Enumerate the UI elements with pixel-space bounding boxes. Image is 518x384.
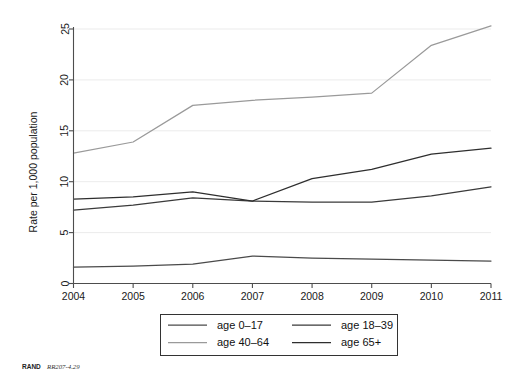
x-tick-label: 2004 — [62, 290, 86, 302]
legend-label-2: age 40–64 — [217, 336, 269, 348]
x-tick-label: 2005 — [121, 290, 145, 302]
y-tick-label: 25 — [59, 23, 71, 35]
x-tick-label: 2008 — [300, 290, 324, 302]
caption-figure-id: RR207-4.29 — [46, 363, 80, 370]
legend-label-0: age 0–17 — [217, 319, 263, 331]
y-tick-label: 5 — [59, 230, 71, 236]
figure-container: 0510152025 20042005200620072008200920102… — [0, 0, 518, 384]
x-tick-label: 2009 — [360, 290, 384, 302]
legend-label-1: age 18–39 — [341, 319, 393, 331]
legend-label-3: age 65+ — [341, 336, 381, 348]
y-tick-label: 15 — [59, 125, 71, 137]
y-axis-title: Rate per 1,000 population — [27, 111, 39, 232]
x-tick-label: 2007 — [241, 290, 265, 302]
y-tick-label: 10 — [59, 176, 71, 188]
y-tick-label: 0 — [59, 280, 71, 286]
y-tick-label: 20 — [59, 74, 71, 86]
caption-source: RAND — [22, 363, 41, 370]
line-chart: 0510152025 20042005200620072008200920102… — [0, 0, 518, 384]
x-tick-label: 2011 — [480, 290, 503, 302]
x-tick-label: 2010 — [420, 290, 444, 302]
x-tick-label: 2006 — [181, 290, 205, 302]
